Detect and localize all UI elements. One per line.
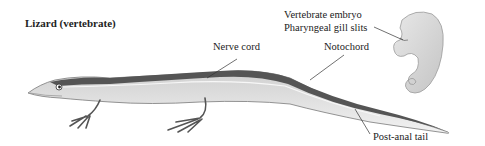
gill-slits-leader [374,27,403,40]
label-notochord: Notochord [324,42,369,53]
label-embryo-title: Vertebrate embryo [284,10,362,21]
vertebrate-embryo [394,12,444,93]
label-post-anal-tail: Post-anal tail [373,132,428,143]
front-leg [70,100,100,128]
lizard-body [28,70,449,133]
label-gill-slits: Pharyngeal gill slits [284,23,367,34]
label-nerve-cord: Nerve cord [213,42,260,53]
lizard-illustration [0,0,485,146]
notochord-leader [310,55,344,80]
